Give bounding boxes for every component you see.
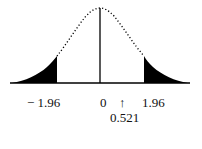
- left-critical-label: − 1.96: [27, 96, 60, 109]
- left-rejection-region: [12, 56, 57, 83]
- up-arrow-icon: ↑: [119, 96, 126, 109]
- mean-label: 0: [100, 96, 107, 109]
- right-rejection-region: [144, 56, 188, 83]
- test-statistic-label: 0.521: [110, 111, 139, 124]
- normal-curve-diagram: [0, 0, 202, 149]
- right-critical-label: 1.96: [142, 96, 165, 109]
